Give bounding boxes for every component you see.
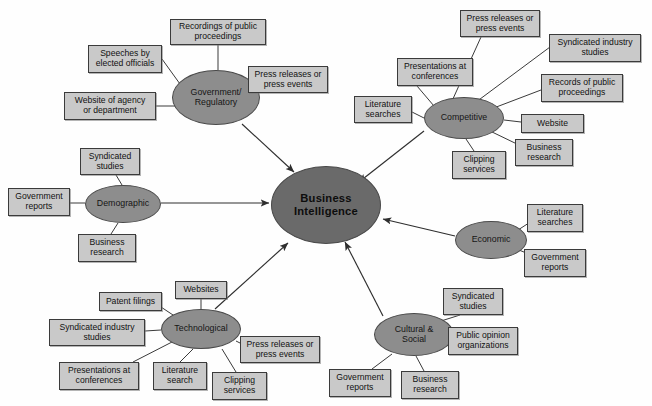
- source-website-comp[interactable]: Website: [521, 114, 584, 133]
- node-label: Government/ Regulatory: [191, 88, 242, 108]
- source-label: Business research: [90, 238, 125, 257]
- node-government-regulatory[interactable]: Government/ Regulatory: [172, 70, 260, 125]
- source-syndicated-studies-demo[interactable]: Syndicated studies: [80, 148, 140, 175]
- source-press-releases-or-press-events-tech[interactable]: Press releases or press events: [240, 336, 320, 363]
- source-business-research-cult[interactable]: Business research: [401, 371, 459, 399]
- source-label: Clipping services: [463, 155, 495, 174]
- node-competitive[interactable]: Competitive: [424, 97, 504, 139]
- source-recordings-of-public-proceedings[interactable]: Recordings of public proceedings: [170, 19, 266, 45]
- source-syndicated-industry-studies-tech[interactable]: Syndicated industry studies: [49, 319, 145, 346]
- node-label: Competitive: [441, 113, 487, 123]
- node-business-intelligence[interactable]: Business Intelligence: [271, 166, 381, 244]
- source-government-reports-econ[interactable]: Government reports: [524, 249, 586, 277]
- source-public-opinion-organizations[interactable]: Public opinion organizations: [448, 327, 518, 355]
- source-speeches-by-elected-officials[interactable]: Speeches by elected officials: [88, 45, 162, 73]
- source-label: Business research: [527, 143, 562, 162]
- source-label: Literature search: [162, 366, 198, 385]
- source-label: Literature searches: [537, 208, 573, 227]
- source-press-releases-or-press-events-comp[interactable]: Press releases or press events: [460, 10, 540, 37]
- source-websites-tech[interactable]: Websites: [175, 281, 227, 299]
- source-label: Press releases or press events: [255, 70, 322, 89]
- source-clipping-services-tech[interactable]: Clipping services: [212, 372, 267, 400]
- source-label: Records of public proceedings: [549, 78, 615, 97]
- source-syndicated-industry-studies-comp[interactable]: Syndicated industry studies: [549, 34, 641, 62]
- source-label: Speeches by elected officials: [96, 49, 155, 68]
- source-label: Press releases or press events: [247, 340, 314, 359]
- source-label: Syndicated industry studies: [558, 38, 633, 57]
- source-label: Recordings of public proceedings: [179, 22, 257, 41]
- source-patent-filings-tech[interactable]: Patent filings: [99, 292, 162, 311]
- node-label: Technological: [174, 324, 227, 334]
- source-label: Government reports: [336, 373, 383, 392]
- source-label: Government reports: [531, 253, 578, 272]
- source-syndicated-studies-cult[interactable]: Syndicated studies: [443, 288, 503, 315]
- source-presentations-at-conferences-tech[interactable]: Presentations at conferences: [59, 362, 139, 390]
- node-label: Business Intelligence: [294, 192, 358, 217]
- node-demographic[interactable]: Demographic: [85, 185, 161, 223]
- node-label: Economic: [472, 235, 511, 245]
- source-label: Syndicated industry studies: [60, 323, 135, 342]
- source-label: Government reports: [15, 192, 62, 211]
- source-business-research-demo[interactable]: Business research: [78, 234, 136, 262]
- source-label: Press releases or press events: [467, 14, 534, 33]
- source-government-reports-cult[interactable]: Government reports: [329, 369, 391, 397]
- diagram-canvas: Business Intelligence Government/ Regula…: [0, 0, 652, 406]
- source-business-research-comp[interactable]: Business research: [515, 139, 573, 166]
- source-label: Syndicated studies: [452, 292, 495, 311]
- node-technological[interactable]: Technological: [161, 309, 241, 349]
- node-cultural-social[interactable]: Cultural & Social: [374, 313, 454, 356]
- source-government-reports-demo[interactable]: Government reports: [8, 188, 70, 216]
- source-clipping-services-comp[interactable]: Clipping services: [452, 151, 506, 179]
- node-economic[interactable]: Economic: [455, 221, 527, 259]
- source-label: Public opinion organizations: [456, 331, 510, 350]
- source-presentations-at-conferences-comp[interactable]: Presentations at conferences: [397, 58, 473, 86]
- source-label: Syndicated studies: [89, 152, 132, 171]
- source-literature-searches-comp[interactable]: Literature searches: [354, 96, 412, 123]
- source-label: Websites: [183, 285, 218, 295]
- source-label: Business research: [413, 375, 448, 394]
- source-label: Literature searches: [365, 100, 401, 119]
- source-label: Presentations at conferences: [68, 366, 130, 385]
- source-label: Presentations at conferences: [404, 62, 466, 81]
- source-label: Website of agency or department: [75, 96, 146, 115]
- node-label: Cultural & Social: [395, 325, 434, 345]
- node-label: Demographic: [97, 199, 149, 209]
- source-label: Website: [537, 119, 568, 129]
- source-label: Clipping services: [224, 376, 256, 395]
- source-website-of-agency-or-department[interactable]: Website of agency or department: [64, 92, 156, 120]
- source-records-of-public-proceedings-comp[interactable]: Records of public proceedings: [541, 74, 623, 102]
- source-press-releases-or-press-events-gov[interactable]: Press releases or press events: [248, 66, 328, 93]
- source-label: Patent filings: [106, 297, 155, 307]
- source-literature-search-tech[interactable]: Literature search: [153, 362, 207, 390]
- source-literature-searches-econ[interactable]: Literature searches: [527, 204, 583, 232]
